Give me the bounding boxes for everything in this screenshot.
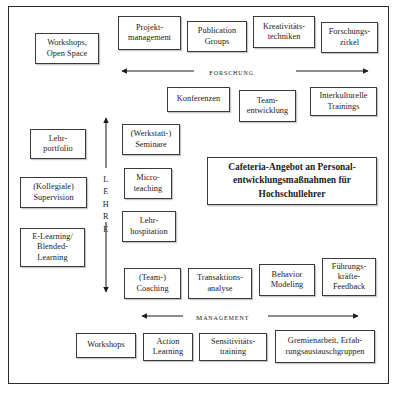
box-werkstatt-seminare: (Werkstatt-) Seminare (122, 124, 180, 155)
box-workshops: Workshops (76, 333, 136, 358)
box-teamentwicklung: Team- entwicklung (239, 90, 296, 122)
box-kollegiale-supervision: (Kollegiale) Supervision (20, 177, 87, 208)
box-konferenzen: Konferenzen (167, 87, 230, 112)
box-elearning-blended-learning: E-Learning/ Blended- Learning (20, 228, 85, 267)
box-transaktionsanalyse: Transaktions- analyse (188, 268, 252, 299)
forschung-axis-label: FORSCHUNG (209, 66, 254, 77)
box-microteaching: Micro- teaching (124, 168, 172, 199)
management-axis-label: MANAGEMENT (196, 311, 249, 322)
box-team-coaching: (Team-) Coaching (124, 268, 181, 299)
box-sensitivitaetstraining: Sensitivitäts- training (199, 333, 267, 361)
cafeteria-model-diagram: Projekt- management Publication Groups K… (0, 0, 403, 400)
box-lehrportfolio: Lehr- portfolio (30, 129, 86, 159)
box-interkulturelle-trainings: Interkulturelle Trainings (310, 87, 377, 116)
box-workshops-open-space: Workshops, Open Space (35, 33, 99, 64)
box-projektmanagement: Projekt- management (118, 16, 181, 50)
box-fuehrungskraefte-feedback: Führungs- kräfte- Feedback (322, 258, 376, 296)
lehre-axis-label: L E H R E (101, 174, 111, 236)
box-lehrhospitation: Lehr- hospitation (122, 211, 176, 242)
center-box-cafeteria-angebot: Cafeteria-Angebot an Personal- entwicklu… (207, 157, 377, 205)
box-kreativitaetstechniken: Kreativitäts- techniken (253, 16, 315, 48)
box-action-learning: Action Learning (143, 333, 193, 361)
box-forschungszirkel: Forschungs- zirkel (321, 22, 378, 53)
box-publication-groups: Publication Groups (187, 21, 247, 52)
box-behavior-modeling: Behavior Modeling (259, 264, 315, 296)
box-gremienarbeit: Gremienarbeit, Erfah- rungsaustauschgrup… (275, 330, 375, 363)
